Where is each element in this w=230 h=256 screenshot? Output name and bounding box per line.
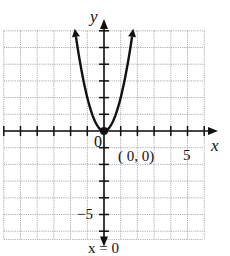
y-tick-label-neg5: −5 bbox=[77, 207, 93, 222]
curve-arrow-left-icon bbox=[72, 29, 80, 38]
x-axis-arrow-icon bbox=[208, 127, 218, 135]
y-axis-label: y bbox=[90, 8, 98, 25]
x-tick-label-5: 5 bbox=[183, 148, 191, 163]
curve-arrow-right-icon bbox=[128, 29, 136, 38]
x-axis-label: x bbox=[211, 137, 219, 154]
vertex-label: ( 0, 0) bbox=[118, 149, 154, 164]
origin-label: 0 bbox=[94, 134, 102, 150]
symmetry-label: x = 0 bbox=[88, 241, 119, 256]
y-axis-arrow-up-icon bbox=[100, 19, 108, 29]
